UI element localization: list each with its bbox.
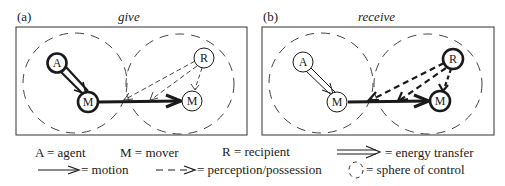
panel-give: (a) give A M: [16, 9, 247, 135]
motion-arrow: [99, 101, 180, 102]
panel-a-tag: (a): [17, 9, 31, 24]
svg-text:R: R: [200, 51, 208, 65]
node-agent: A: [48, 54, 67, 73]
node-mover-target: M: [430, 91, 450, 111]
node-mover-source: M: [327, 92, 347, 112]
svg-text:M: M: [187, 94, 198, 108]
node-recipient: R: [443, 49, 463, 69]
motion-arrow: [348, 101, 428, 102]
svg-text:M: M: [435, 94, 446, 108]
node-agent: A: [293, 52, 313, 72]
energy-transfer-arrow: [60, 67, 88, 95]
panel-receive: (b) receive A M: [262, 9, 494, 135]
svg-text:M: M: [332, 95, 343, 109]
node-mover-source: M: [78, 92, 98, 112]
sphere-of-control-legend-icon: [349, 162, 363, 178]
sphere-of-control-agent: [23, 33, 127, 133]
legend-motion: = motion: [81, 162, 129, 177]
motion-legend-icon: [38, 166, 79, 174]
legend-recipient: R = recipient: [222, 144, 290, 159]
node-recipient: R: [194, 48, 214, 68]
svg-text:A: A: [53, 56, 62, 70]
energy-transfer-arrow: [306, 68, 335, 95]
sphere-of-control-recipient: [126, 34, 234, 134]
legend-mover: M = mover: [120, 145, 179, 160]
legend-energy-transfer: = energy transfer: [385, 145, 474, 160]
panel-a-title: give: [118, 9, 140, 24]
sphere-of-control-agent: [269, 33, 373, 133]
legend-agent: A = agent: [35, 145, 86, 160]
legend-perception-possession: = perception/possession: [197, 162, 322, 177]
svg-text:R: R: [449, 52, 457, 66]
legend-sphere-of-control: = sphere of control: [366, 162, 465, 177]
node-mover-target: M: [182, 91, 202, 111]
panel-b-title: receive: [358, 9, 395, 24]
legend: A = agent M = mover R = recipient = ener…: [35, 144, 474, 178]
perception-legend-icon: [156, 166, 195, 174]
sphere-of-control-recipient: [374, 34, 482, 134]
panel-a-frame: [16, 27, 247, 135]
give-receive-diagram: (a) give A M: [0, 0, 505, 186]
energy-transfer-legend-icon: [337, 146, 380, 158]
panel-b-tag: (b): [263, 9, 278, 24]
svg-text:M: M: [83, 95, 94, 109]
svg-text:A: A: [299, 55, 308, 69]
